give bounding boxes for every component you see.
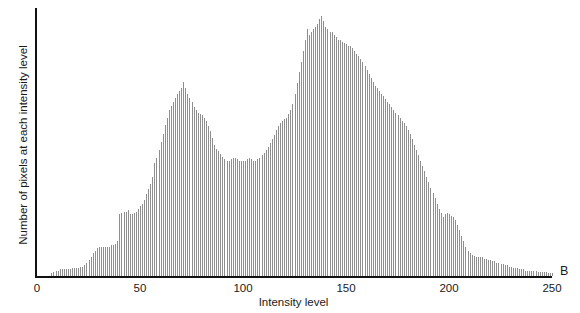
x-axis-line <box>35 276 552 278</box>
histogram-bar <box>360 59 361 276</box>
histogram-bar <box>362 62 363 276</box>
histogram-bar <box>422 166 423 276</box>
histogram-bar <box>365 66 366 276</box>
histogram-bar <box>531 271 532 276</box>
axis-end-label: B <box>560 264 568 279</box>
histogram-bar <box>379 91 380 276</box>
histogram-bar <box>229 161 230 276</box>
histogram-bar <box>517 268 518 276</box>
histogram-bar <box>224 159 225 276</box>
histogram-bar <box>400 118 401 276</box>
histogram-bar <box>169 110 170 276</box>
histogram-bar <box>276 130 277 276</box>
histogram-bar <box>200 114 201 276</box>
histogram-bar <box>74 268 75 276</box>
histogram-bar <box>86 263 87 276</box>
histogram-bar <box>140 206 141 276</box>
histogram-bar <box>111 245 112 276</box>
histogram-bar <box>389 104 390 276</box>
histogram-bar <box>465 247 466 276</box>
histogram-bar <box>412 139 413 276</box>
histogram-bar <box>204 118 205 276</box>
histogram-bar <box>515 268 516 276</box>
histogram-bar <box>480 257 481 276</box>
histogram-bar <box>231 159 232 276</box>
histogram-bar <box>175 98 176 276</box>
histogram-bar <box>189 98 190 276</box>
histogram-bar <box>220 154 221 276</box>
histogram-bar <box>451 216 452 276</box>
histogram-bar <box>330 32 331 276</box>
histogram-bar <box>117 241 118 276</box>
histogram-bar <box>498 263 499 276</box>
histogram-bar <box>468 251 469 276</box>
histogram-bar <box>492 261 493 276</box>
histogram-bar <box>373 82 374 276</box>
histogram-bar <box>84 265 85 276</box>
histogram-bar <box>416 150 417 276</box>
histogram-bar <box>494 261 495 276</box>
histogram-bar <box>319 19 320 276</box>
histogram-bar <box>303 51 304 276</box>
histogram-bar <box>266 150 267 276</box>
histogram-bar <box>338 40 339 276</box>
histogram-bar <box>253 161 254 276</box>
histogram-bar <box>441 213 442 276</box>
histogram-bar <box>459 230 460 276</box>
histogram-bar <box>348 46 349 276</box>
histogram-bar <box>358 56 359 276</box>
histogram-bar <box>542 272 543 276</box>
histogram-bar <box>128 210 129 276</box>
histogram-bar <box>297 83 298 276</box>
histogram-bar <box>525 271 526 276</box>
histogram-bar <box>132 214 133 276</box>
histogram-bar <box>334 35 335 276</box>
histogram-bar <box>124 212 125 276</box>
histogram-bar <box>115 244 116 276</box>
histogram-bar <box>309 35 310 276</box>
histogram-bar <box>418 155 419 276</box>
histogram-bar <box>183 82 184 276</box>
histogram-bar <box>152 177 153 276</box>
histogram-bar <box>478 257 479 276</box>
histogram-bar <box>548 273 549 276</box>
histogram-bar <box>68 269 69 276</box>
histogram-bar <box>391 107 392 276</box>
histogram-bar <box>367 70 368 276</box>
histogram-bar <box>286 118 287 276</box>
histogram-bar <box>278 126 279 276</box>
histogram-bar <box>371 78 372 276</box>
histogram-bar <box>80 267 81 276</box>
histogram-bar <box>146 194 147 276</box>
histogram-bar <box>453 217 454 276</box>
histogram-bar <box>177 94 178 276</box>
histogram-bar <box>167 118 168 276</box>
histogram-bar <box>99 247 100 276</box>
histogram-bar <box>247 159 248 276</box>
histogram-bar <box>208 126 209 276</box>
histogram-bar <box>255 161 256 276</box>
histogram-bar <box>89 260 90 276</box>
x-axis-label: Intensity level <box>35 295 552 309</box>
histogram-bar <box>346 44 347 276</box>
histogram-bar <box>381 94 382 276</box>
histogram-bar <box>70 269 71 276</box>
histogram-bar <box>245 161 246 276</box>
histogram-bar <box>150 184 151 276</box>
histogram-bar <box>214 145 215 276</box>
histogram-bar <box>156 158 157 276</box>
histogram-bar <box>64 269 65 276</box>
histogram-bar <box>533 271 534 276</box>
x-axis-tick-label: 250 <box>532 281 572 295</box>
histogram-bar <box>51 273 52 276</box>
histogram-bar <box>402 121 403 276</box>
histogram-bar <box>262 155 263 276</box>
histogram-bar <box>82 267 83 276</box>
histogram-bar <box>519 269 520 276</box>
histogram-bar <box>97 248 98 276</box>
histogram-bar <box>449 214 450 276</box>
histogram-bar <box>163 134 164 276</box>
histogram-bar <box>354 51 355 276</box>
histogram-bar <box>408 130 409 276</box>
histogram-bar <box>216 149 217 276</box>
